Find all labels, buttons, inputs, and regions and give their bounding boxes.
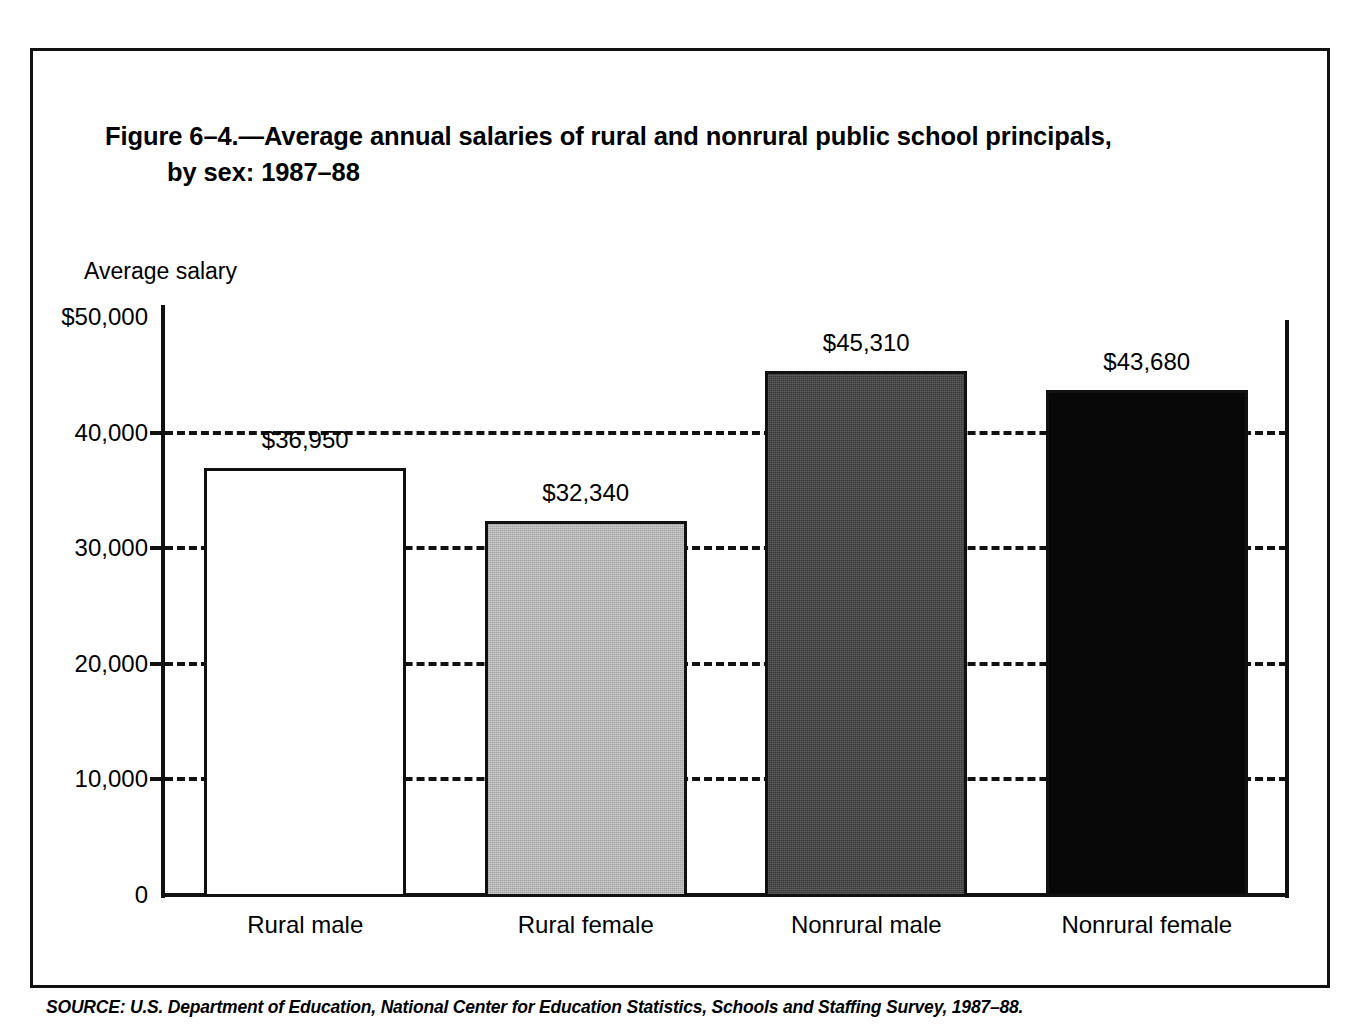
x-axis-label-rural-male: Rural male xyxy=(247,911,363,939)
y-tick-40000 xyxy=(150,431,166,435)
bar-rural-male xyxy=(204,468,406,897)
x-axis-label-rural-female: Rural female xyxy=(518,911,654,939)
bar-nonrural-female xyxy=(1046,390,1248,897)
source-note: SOURCE: U.S. Department of Education, Na… xyxy=(46,997,1023,1018)
bar-rural-female xyxy=(485,521,687,897)
bar-value-label-nonrural-female: $43,680 xyxy=(1103,348,1190,376)
bar-value-label-rural-male: $36,950 xyxy=(262,426,349,454)
bar-nonrural-male xyxy=(765,371,967,897)
bar-value-label-nonrural-male: $45,310 xyxy=(823,329,910,357)
y-tick-30000 xyxy=(150,546,166,550)
y-axis-line-right xyxy=(1285,320,1289,898)
figure-page: Figure 6–4.—Average annual salaries of r… xyxy=(0,0,1348,1034)
y-tick-label-50000: $50,000 xyxy=(0,303,148,331)
y-tick-10000 xyxy=(150,777,166,781)
y-tick-label-40000: 40,000 xyxy=(0,419,148,447)
y-tick-label-20000: 20,000 xyxy=(0,650,148,678)
y-axis-line xyxy=(161,305,165,898)
y-tick-label-30000: 30,000 xyxy=(0,534,148,562)
y-tick-label-0: 0 xyxy=(0,881,148,909)
x-axis-label-nonrural-female: Nonrural female xyxy=(1061,911,1232,939)
y-tick-20000 xyxy=(150,662,166,666)
bar-value-label-rural-female: $32,340 xyxy=(542,479,629,507)
bar-chart-plot-area: 010,00020,00030,00040,000$50,000 $36,950… xyxy=(0,0,1348,1034)
y-tick-label-10000: 10,000 xyxy=(0,765,148,793)
x-axis-label-nonrural-male: Nonrural male xyxy=(791,911,942,939)
